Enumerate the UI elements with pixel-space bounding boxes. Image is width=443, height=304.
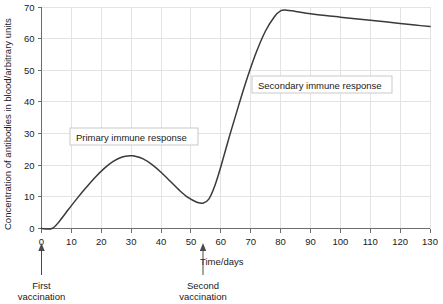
first-vaccination-label-line2: vaccination: [18, 291, 66, 302]
x-tick-label: 50: [186, 236, 197, 247]
y-tick-label: 70: [24, 2, 35, 13]
gridlines: [42, 7, 431, 229]
x-tick-label: 100: [332, 236, 348, 247]
x-tick-label: 60: [216, 236, 227, 247]
second-vaccination-label-line2: vaccination: [179, 291, 227, 302]
x-axis-title: Time/days: [200, 256, 244, 267]
x-tick-label: 10: [66, 236, 77, 247]
x-tick-label: 70: [245, 236, 256, 247]
x-tick-label: 80: [275, 236, 286, 247]
y-tick-label: 20: [24, 160, 35, 171]
second-vaccination-marker: Second vaccination: [179, 243, 227, 302]
y-tick-label: 10: [24, 191, 35, 202]
second-vaccination-label-line1: Second: [187, 280, 219, 291]
x-tick-labels: 0102030405060708090100110120130: [39, 236, 438, 247]
primary-immune-response-callout: Primary immune response: [70, 128, 198, 145]
y-axis-title: Concentration of antibodies in blood/arb…: [2, 18, 13, 230]
primary-callout-label: Primary immune response: [76, 132, 187, 143]
x-tick-label: 110: [363, 236, 378, 247]
first-vaccination-label-line1: First: [32, 280, 51, 291]
secondary-callout-label: Secondary immune response: [258, 80, 382, 91]
x-tick-label: 120: [392, 236, 408, 247]
y-tick-label: 60: [24, 33, 35, 44]
immune-response-chart: 010203040506070 010203040506070809010011…: [0, 0, 443, 304]
y-tick-label: 30: [24, 128, 35, 139]
x-tick-label: 30: [126, 236, 137, 247]
y-tick-labels: 010203040506070: [24, 2, 35, 235]
secondary-immune-response-callout: Secondary immune response: [252, 76, 392, 93]
x-tick-label: 40: [156, 236, 167, 247]
antibody-concentration-curve: [42, 10, 431, 229]
first-vaccination-marker: First vaccination: [18, 243, 66, 302]
x-tick-label: 130: [422, 236, 438, 247]
x-tick-label: 20: [96, 236, 107, 247]
y-tick-label: 40: [24, 96, 35, 107]
y-tick-label: 50: [24, 65, 35, 76]
chart-svg: 010203040506070 010203040506070809010011…: [0, 0, 443, 304]
y-tick-label: 0: [29, 223, 34, 234]
x-tick-label: 90: [305, 236, 316, 247]
second-vaccination-arrow-head: [200, 243, 206, 251]
